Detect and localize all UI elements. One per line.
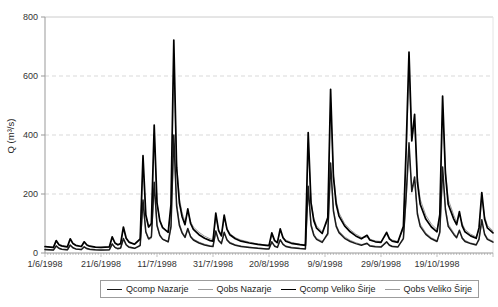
- legend-line-swatch: [281, 289, 296, 290]
- legend-item: Qobs Veliko Širje: [385, 284, 473, 294]
- x-tick-label: 11/7/1998: [137, 259, 176, 269]
- legend-line-swatch: [198, 289, 213, 290]
- legend-line-swatch: [107, 289, 122, 290]
- y-tick-label: 0: [33, 248, 38, 258]
- legend-line-swatch: [385, 289, 400, 290]
- x-tick-label: 9/9/1998: [307, 259, 342, 269]
- legend: Qcomp NazarjeQobs NazarjeQcomp Veliko Ši…: [100, 280, 479, 298]
- x-tick-label: 19/10/1998: [414, 259, 459, 269]
- x-tick-label: 29/9/1998: [361, 259, 401, 269]
- legend-label: Qcomp Veliko Širje: [300, 284, 376, 294]
- legend-label: Qobs Nazarje: [217, 284, 272, 294]
- plot-area: 02004006008001/6/199821/6/199811/7/19983…: [0, 0, 498, 307]
- series-line-3: [45, 40, 493, 247]
- x-tick-label: 20/8/1998: [249, 259, 289, 269]
- y-tick-label: 200: [23, 189, 38, 199]
- y-tick-label: 400: [23, 130, 38, 140]
- y-tick-label: 800: [23, 12, 38, 22]
- legend-label: Qobs Veliko Širje: [404, 284, 473, 294]
- legend-item: Qcomp Veliko Širje: [281, 284, 376, 294]
- y-tick-label: 600: [23, 71, 38, 81]
- x-tick-label: 31/7/1998: [193, 259, 233, 269]
- legend-item: Qobs Nazarje: [198, 284, 272, 294]
- x-tick-label: 21/6/1998: [81, 259, 121, 269]
- legend-label: Qcomp Nazarje: [126, 284, 189, 294]
- legend-item: Qcomp Nazarje: [107, 284, 189, 294]
- x-tick-label: 1/6/1998: [27, 259, 62, 269]
- y-axis-title: Q (m³/s): [5, 119, 16, 154]
- hydrograph-figure: 02004006008001/6/199821/6/199811/7/19983…: [0, 0, 498, 307]
